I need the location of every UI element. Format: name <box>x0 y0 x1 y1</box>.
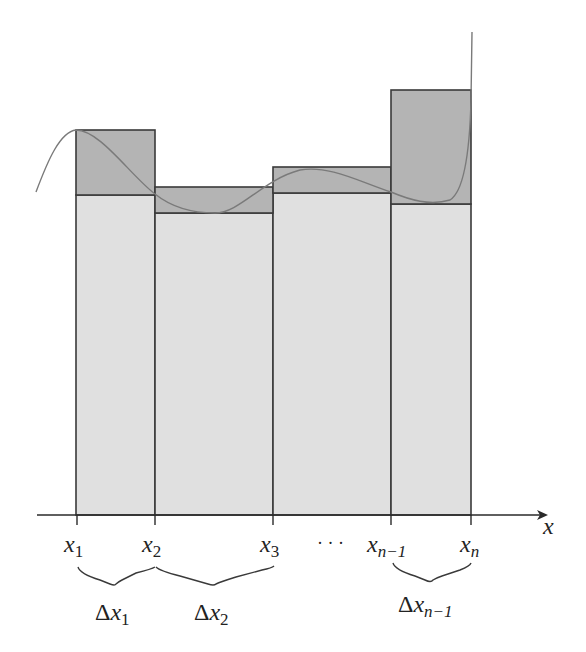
lower-rect-3 <box>273 193 391 515</box>
braces <box>78 563 471 585</box>
lower-rect-4 <box>391 204 471 515</box>
tick-label-x1: x1 <box>63 531 83 561</box>
lower-rect-2 <box>155 213 273 515</box>
tick-label-x3: x3 <box>259 531 279 561</box>
brace-3-icon <box>393 563 471 582</box>
upper-rect-2 <box>155 187 273 213</box>
upper-rect-3 <box>273 167 391 193</box>
upper-rectangles <box>76 90 471 213</box>
brace-2-icon <box>156 566 274 585</box>
brace-label-dx2: Δx2 <box>194 599 229 629</box>
brace-label-dx1: Δx1 <box>95 599 130 629</box>
upper-rect-1 <box>76 130 155 195</box>
lower-rect-1 <box>76 195 155 515</box>
tick-label-xn: xn <box>459 531 479 561</box>
x-axis-label: x <box>542 513 554 539</box>
brace-1-icon <box>78 567 155 585</box>
brace-label-dxn-1: Δxn−1 <box>398 591 453 621</box>
tick-label-x2: x2 <box>141 531 161 561</box>
tick-marks <box>77 515 471 525</box>
lower-rectangles <box>76 193 471 515</box>
tick-label-xn-1: xn−1 <box>366 531 406 561</box>
ellipsis: · · · <box>317 533 344 553</box>
riemann-sum-diagram: x x1 x2 x3 · · · xn−1 xn Δx1 Δx2 Δxn−1 <box>0 0 586 652</box>
